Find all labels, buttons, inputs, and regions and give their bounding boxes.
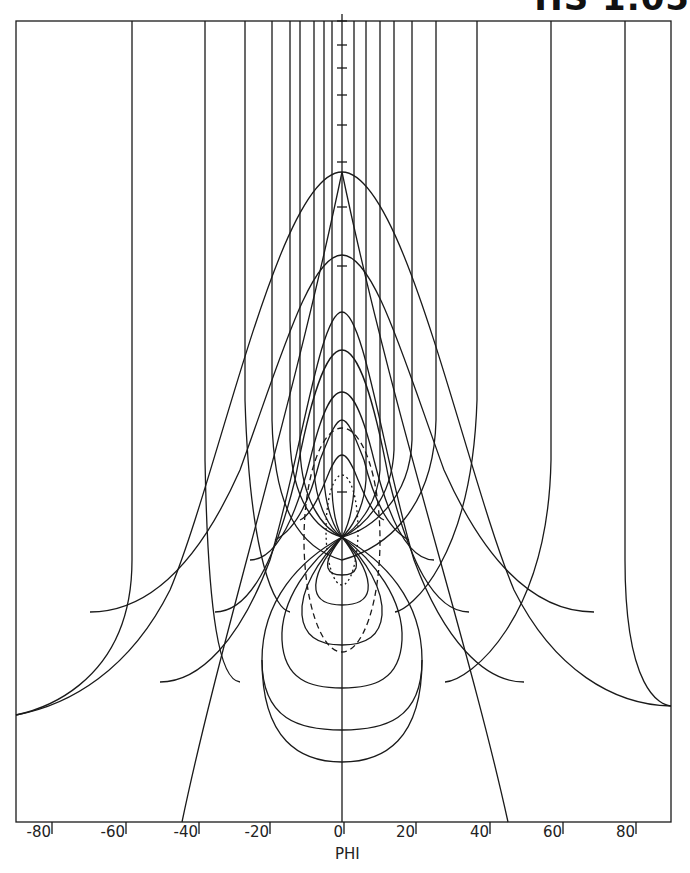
x-tick-label: -60 (101, 823, 126, 841)
x-tick-label: 80 (616, 823, 635, 841)
meridian-right-80 (625, 21, 671, 706)
plot-frame (16, 21, 671, 822)
x-axis-label: PHI (335, 845, 360, 863)
x-tick-label: 60 (543, 823, 562, 841)
oblique-right (342, 172, 508, 822)
meridians (16, 21, 671, 822)
x-tick-label: 0 (333, 823, 343, 841)
meridian-left-60 (205, 21, 240, 682)
meridian-left-80 (16, 21, 132, 715)
x-tick-label: -40 (174, 823, 199, 841)
plot-area (0, 0, 690, 873)
meridian-right-60 (445, 21, 551, 682)
x-tick-label: 20 (396, 823, 415, 841)
x-tick-label: -80 (27, 823, 52, 841)
x-tick-label: -20 (245, 823, 270, 841)
x-tick-label: 40 (470, 823, 489, 841)
parallels (16, 172, 671, 762)
